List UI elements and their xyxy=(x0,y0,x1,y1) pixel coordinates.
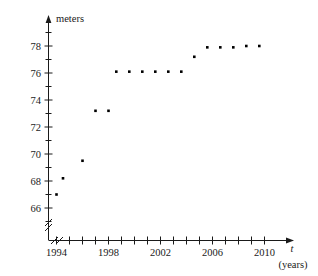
data-point xyxy=(55,193,58,196)
data-point xyxy=(128,70,131,73)
data-point xyxy=(154,70,157,73)
data-point xyxy=(141,70,144,73)
data-point xyxy=(62,177,65,180)
x-tick-label-2002: 2002 xyxy=(150,247,171,258)
y-tick-label-70: 70 xyxy=(31,149,42,160)
x-tick-label-2010: 2010 xyxy=(254,247,275,258)
data-point xyxy=(115,70,118,73)
x-axis-title: t xyxy=(291,243,295,254)
y-tick-label-76: 76 xyxy=(31,68,42,79)
data-point-series xyxy=(55,45,260,196)
y-tick-label-68: 68 xyxy=(31,176,42,187)
scatter-chart: 78 76 74 72 70 68 66 meters xyxy=(0,0,318,276)
data-point xyxy=(206,46,209,49)
data-point xyxy=(258,45,261,48)
y-axis-title: meters xyxy=(56,13,84,24)
x-tick-label-1998: 1998 xyxy=(98,247,119,258)
y-axis: 78 76 74 72 70 68 66 meters xyxy=(31,13,85,240)
x-axis-unit-label: (years) xyxy=(278,259,308,271)
data-point xyxy=(81,159,84,162)
data-point xyxy=(232,46,235,49)
data-point xyxy=(107,110,110,113)
x-tick-label-1994: 1994 xyxy=(46,247,68,258)
data-point xyxy=(245,45,248,48)
data-point xyxy=(94,110,97,113)
y-tick-label-74: 74 xyxy=(31,95,42,106)
y-tick-label-72: 72 xyxy=(31,122,42,133)
chart-canvas: 78 76 74 72 70 68 66 meters xyxy=(0,0,318,276)
data-point xyxy=(167,70,170,73)
y-tick-label-66: 66 xyxy=(31,203,42,214)
data-point xyxy=(180,70,183,73)
data-point xyxy=(193,56,196,59)
x-tick-label-2006: 2006 xyxy=(202,247,223,258)
y-axis-arrowhead xyxy=(46,15,52,23)
x-axis: 1994 1998 2002 2006 2010 t (years) xyxy=(46,237,308,272)
data-point xyxy=(219,46,222,49)
y-tick-label-78: 78 xyxy=(31,41,42,52)
